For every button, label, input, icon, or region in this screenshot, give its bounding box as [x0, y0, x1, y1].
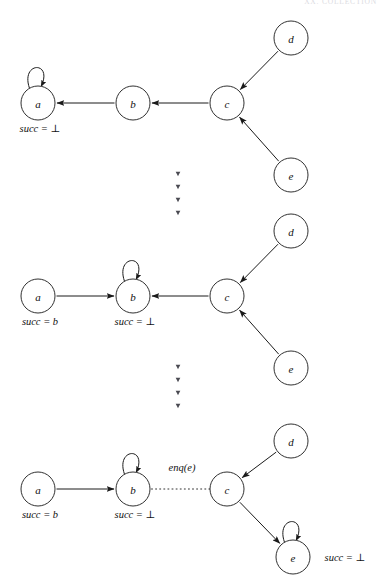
self-loop-b: [123, 261, 139, 282]
succ-label-e: succ = ⊥: [325, 552, 366, 563]
node-label-a: a: [35, 98, 41, 110]
succ-label-b: succ = ⊥: [115, 316, 156, 327]
separator-dot: [176, 404, 181, 408]
separator-2: [176, 365, 181, 408]
separator-dot: [176, 391, 181, 395]
edge-label-enq: enq(e): [169, 462, 196, 474]
node-label-b: b: [130, 484, 136, 496]
node-label-c: c: [225, 484, 230, 496]
edge-d-to-c: [240, 244, 278, 282]
node-label-c: c: [225, 291, 230, 303]
self-loop-a: [28, 68, 44, 89]
node-label-d: d: [288, 226, 294, 238]
edge-c-to-e: [240, 502, 280, 543]
state-transition-diagram: asucc = ⊥bcdeasucc = bbsucc = ⊥cdeasucc …: [0, 0, 385, 587]
node-label-e: e: [289, 363, 294, 375]
node-label-e: e: [289, 170, 294, 182]
edge-e-to-c: [240, 310, 279, 354]
edge-e-to-c: [240, 117, 279, 161]
figure-root: XX. COLLECTION asucc = ⊥bcdeasucc = bbsu…: [0, 0, 385, 587]
self-loop-b: [123, 454, 139, 475]
edge-d-to-c: [240, 51, 278, 89]
edge-d-to-c: [242, 452, 276, 478]
node-label-a: a: [35, 484, 41, 496]
separator-dot: [176, 172, 181, 176]
diagram-panel-2: asucc = bbsucc = ⊥cde: [21, 214, 308, 385]
node-label-b: b: [130, 98, 136, 110]
separator-1: [176, 172, 181, 215]
self-loop-e: [283, 522, 299, 543]
running-head: XX. COLLECTION: [304, 0, 377, 6]
diagram-panel-1: asucc = ⊥bcde: [20, 21, 308, 192]
diagram-panel-3: asucc = bbsucc = ⊥cdesucc = ⊥enq(e): [21, 424, 365, 574]
node-label-d: d: [288, 436, 294, 448]
node-label-a: a: [35, 291, 41, 303]
node-label-e: e: [291, 552, 296, 564]
separator-dot: [176, 198, 181, 202]
succ-label-a: succ = b: [22, 509, 58, 520]
diagram-content: asucc = ⊥bcdeasucc = bbsucc = ⊥cdeasucc …: [20, 21, 366, 574]
succ-label-a: succ = ⊥: [20, 123, 61, 134]
separator-dot: [176, 365, 181, 369]
separator-dot: [176, 378, 181, 382]
node-label-b: b: [130, 291, 136, 303]
separator-dot: [176, 185, 181, 189]
succ-label-a: succ = b: [22, 316, 58, 327]
succ-label-b: succ = ⊥: [115, 509, 156, 520]
node-label-c: c: [225, 98, 230, 110]
separator-dot: [176, 211, 181, 215]
node-label-d: d: [288, 33, 294, 45]
